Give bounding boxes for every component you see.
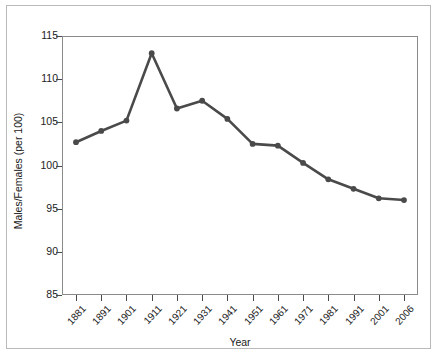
y-tick-label: 115 — [28, 30, 58, 41]
x-tick-mark — [152, 295, 153, 301]
y-tick-mark — [56, 209, 62, 210]
y-tick-label: 85 — [28, 289, 58, 300]
x-tick-mark — [278, 295, 279, 301]
data-point-marker: 1931: 107.5 — [199, 98, 205, 104]
data-point-marker: 1971: 100.3 — [300, 160, 306, 166]
x-tick-mark — [253, 295, 254, 301]
y-tick-mark — [56, 295, 62, 296]
y-tick-label: 90 — [28, 246, 58, 257]
data-line — [76, 53, 404, 200]
data-point-marker: 1881: 102.7 — [73, 139, 79, 145]
x-tick-mark — [227, 295, 228, 301]
data-point-marker: 1891: 104 — [98, 128, 104, 134]
y-tick-mark — [56, 122, 62, 123]
x-tick-mark — [76, 295, 77, 301]
x-tick-mark — [126, 295, 127, 301]
y-axis-title: Males/Females (per 100) — [12, 71, 24, 271]
x-tick-mark — [404, 295, 405, 301]
line-series-svg: 1881: 102.71891: 1041901: 105.21911: 113… — [62, 36, 418, 295]
y-tick-label: 110 — [28, 73, 58, 84]
data-point-marker: 1981: 98.4 — [325, 176, 331, 182]
data-point-marker: 1921: 106.6 — [174, 106, 180, 112]
x-tick-mark — [202, 295, 203, 301]
data-point-marker: 1991: 97.3 — [351, 186, 357, 192]
x-tick-mark — [303, 295, 304, 301]
y-tick-mark — [56, 79, 62, 80]
x-tick-mark — [354, 295, 355, 301]
chart-figure: 859095100105110115 Males/Females (per 10… — [0, 0, 442, 362]
data-point-marker: 2001: 96.2 — [376, 195, 382, 201]
y-tick-mark — [56, 36, 62, 37]
y-tick-mark — [56, 166, 62, 167]
x-tick-mark — [177, 295, 178, 301]
y-tick-label: 95 — [28, 203, 58, 214]
data-point-marker: 2006: 96 — [401, 197, 407, 203]
data-point-marker: 1961: 102.3 — [275, 143, 281, 149]
x-tick-mark — [101, 295, 102, 301]
data-point-marker: 1901: 105.2 — [124, 118, 130, 124]
data-point-marker: 1941: 105.4 — [224, 116, 230, 122]
x-axis-title: Year — [62, 336, 418, 348]
x-tick-mark — [328, 295, 329, 301]
x-tick-mark — [379, 295, 380, 301]
y-tick-mark — [56, 252, 62, 253]
y-tick-label: 105 — [28, 116, 58, 127]
data-point-marker: 1911: 113 — [149, 50, 155, 56]
y-axis-ticks: 859095100105110115 — [24, 0, 58, 362]
data-point-marker: 1951: 102.5 — [250, 141, 256, 147]
y-tick-label: 100 — [28, 160, 58, 171]
